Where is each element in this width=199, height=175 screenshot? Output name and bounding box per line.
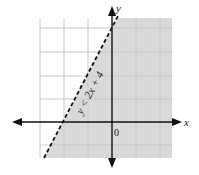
y-axis-arrow-up-icon [108,6,116,16]
shaded-region [44,18,172,158]
x-axis-label: x [183,116,189,128]
origin-label: 0 [114,127,119,138]
y-axis-label: y [115,2,121,14]
y-axis-arrow-down-icon [108,158,116,168]
graph-canvas: x y 0 y < 2x + 4 [0,0,199,175]
x-axis-arrow-left-icon [12,118,22,126]
x-axis-arrow-right-icon [172,118,182,126]
